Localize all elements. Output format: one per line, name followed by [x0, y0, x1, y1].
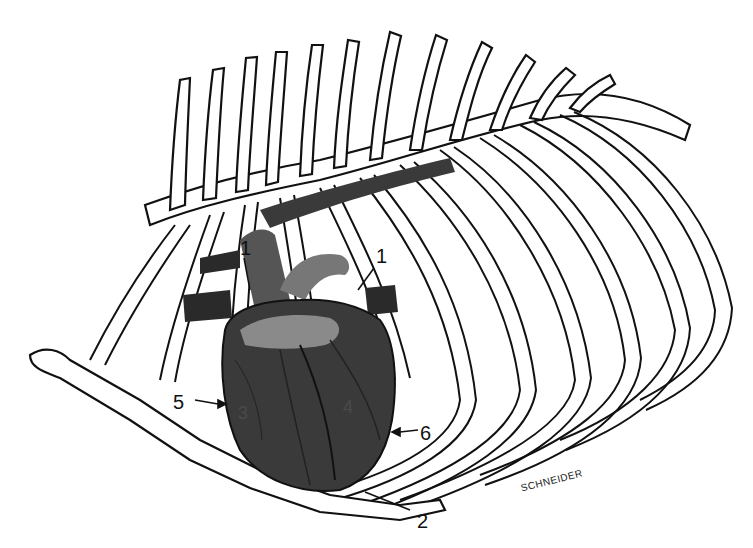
label-1-aorta: 1 — [240, 238, 251, 258]
label-6: 6 — [420, 423, 431, 443]
label-2: 2 — [417, 511, 428, 531]
label-3: 3 — [238, 404, 248, 422]
label-5: 5 — [173, 392, 184, 412]
heart — [222, 300, 395, 491]
label-1-vessel-right: 1 — [376, 246, 387, 266]
thorax-illustration — [0, 0, 753, 548]
label-4: 4 — [343, 398, 353, 416]
